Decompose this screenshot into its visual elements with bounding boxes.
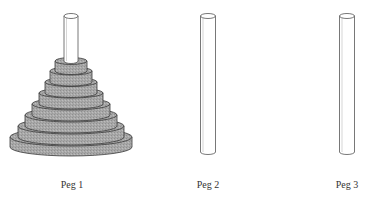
disk-stack <box>10 58 132 156</box>
peg-1-label: Peg 1 <box>61 179 84 190</box>
peg-2 <box>201 14 216 155</box>
peg-2-label: Peg 2 <box>197 179 220 190</box>
peg-1 <box>64 14 78 64</box>
towers-of-hanoi-diagram <box>0 0 369 199</box>
peg-3 <box>340 14 355 155</box>
peg-3-label: Peg 3 <box>336 179 359 190</box>
